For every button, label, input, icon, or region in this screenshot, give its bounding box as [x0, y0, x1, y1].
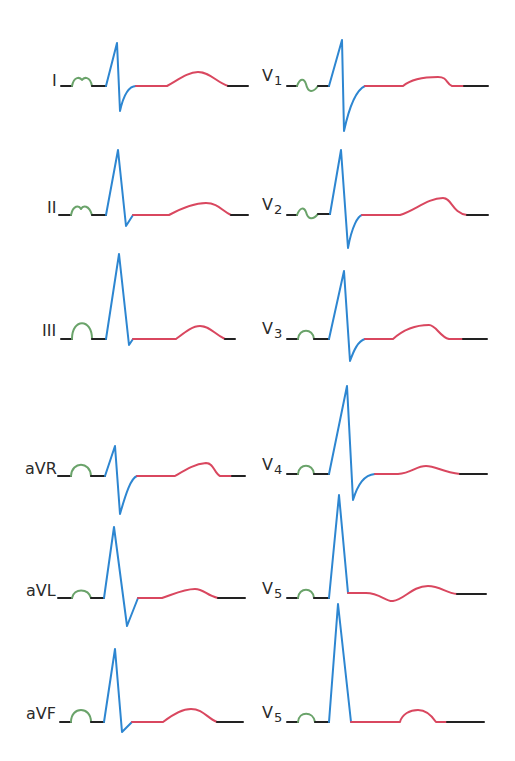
trace-lead-I: [61, 43, 248, 111]
trace-lead-aVR: [58, 446, 245, 514]
ecg-traces: [0, 0, 515, 761]
trace-lead-V5-second: [287, 604, 484, 722]
trace-lead-III: [61, 254, 235, 345]
trace-lead-V3: [287, 271, 487, 361]
trace-lead-aVL: [58, 527, 245, 626]
trace-lead-V1: [287, 40, 488, 131]
trace-lead-V5: [287, 495, 486, 601]
trace-lead-V2: [287, 150, 488, 248]
trace-lead-aVF: [60, 649, 243, 732]
trace-lead-V4: [287, 386, 487, 500]
ecg-diagram: I II III aVR aVL aVF V1 V2 V3 V4 V5 V5: [0, 0, 515, 761]
trace-lead-II: [59, 150, 248, 226]
